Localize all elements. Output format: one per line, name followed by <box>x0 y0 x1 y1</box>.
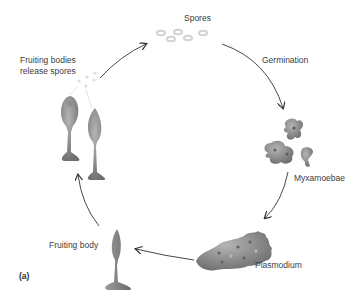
arrow-release-to-spores <box>100 44 146 78</box>
cycle-arrows <box>78 44 288 260</box>
arrow-spores-to-myxamoebae <box>222 44 283 108</box>
spores-icon <box>157 30 207 41</box>
arrow-fruiting-body-to-release <box>78 175 99 226</box>
fruiting-bodies-release-icon <box>61 86 105 180</box>
label-fruiting-bodies-release-line1: Fruiting bodies <box>20 55 76 66</box>
fruiting-body-icon <box>105 229 131 290</box>
arrow-plasmodium-to-fruiting-body <box>136 249 194 260</box>
released-spores-icon <box>77 71 96 87</box>
label-plasmodium: Plasmodium <box>255 260 302 271</box>
label-myxamoebae: Myxamoebae <box>294 173 345 184</box>
arrow-myxamoebae-to-plasmodium <box>265 172 288 218</box>
label-germination: Germination <box>262 55 308 66</box>
panel-label: (a) <box>19 271 29 281</box>
label-fruiting-body: Fruiting body <box>49 240 98 251</box>
label-spores: Spores <box>184 13 211 24</box>
myxamoebae-icon <box>264 119 313 167</box>
label-fruiting-bodies-release-line2: release spores <box>20 66 76 77</box>
